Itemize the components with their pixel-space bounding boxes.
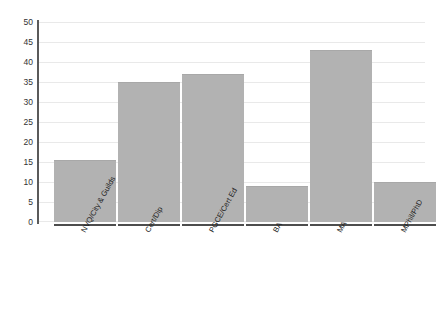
y-tick-label: 0 <box>3 218 33 227</box>
y-tick-label: 50 <box>3 18 33 27</box>
bar-cert-dip <box>118 82 180 222</box>
bar-nvq-city-guilds <box>54 160 116 222</box>
y-tick-label: 5 <box>3 198 33 207</box>
y-tick-label: 20 <box>3 138 33 147</box>
bar-pgce-cert-ed <box>182 74 244 222</box>
category-base-rule <box>118 224 180 226</box>
gridline <box>39 42 425 43</box>
y-tick-label: 40 <box>3 58 33 67</box>
category-base-rule <box>246 224 308 226</box>
category-base-rule <box>182 224 244 226</box>
bar-mphil-phd <box>374 182 436 222</box>
bar-ma <box>310 50 372 222</box>
y-tick-label: 10 <box>3 178 33 187</box>
y-tick-label: 45 <box>3 38 33 47</box>
plot-area <box>39 22 425 222</box>
category-base-rule <box>310 224 372 226</box>
x-tick-label-ma: MA <box>336 220 348 234</box>
y-axis-tick-labels: 50 45 40 35 30 25 20 15 10 5 0 <box>0 22 33 222</box>
y-tick-label: 30 <box>3 98 33 107</box>
category-base-rule <box>374 224 436 226</box>
y-tick-label: 25 <box>3 118 33 127</box>
category-base-rule <box>54 224 116 226</box>
gridline <box>39 22 425 23</box>
bar-ba <box>246 186 308 222</box>
y-tick-label: 15 <box>3 158 33 167</box>
y-tick-label: 35 <box>3 78 33 87</box>
bar-chart: 50 45 40 35 30 25 20 15 10 5 0 <box>0 0 446 316</box>
x-tick-label-ba: BA <box>272 221 284 234</box>
